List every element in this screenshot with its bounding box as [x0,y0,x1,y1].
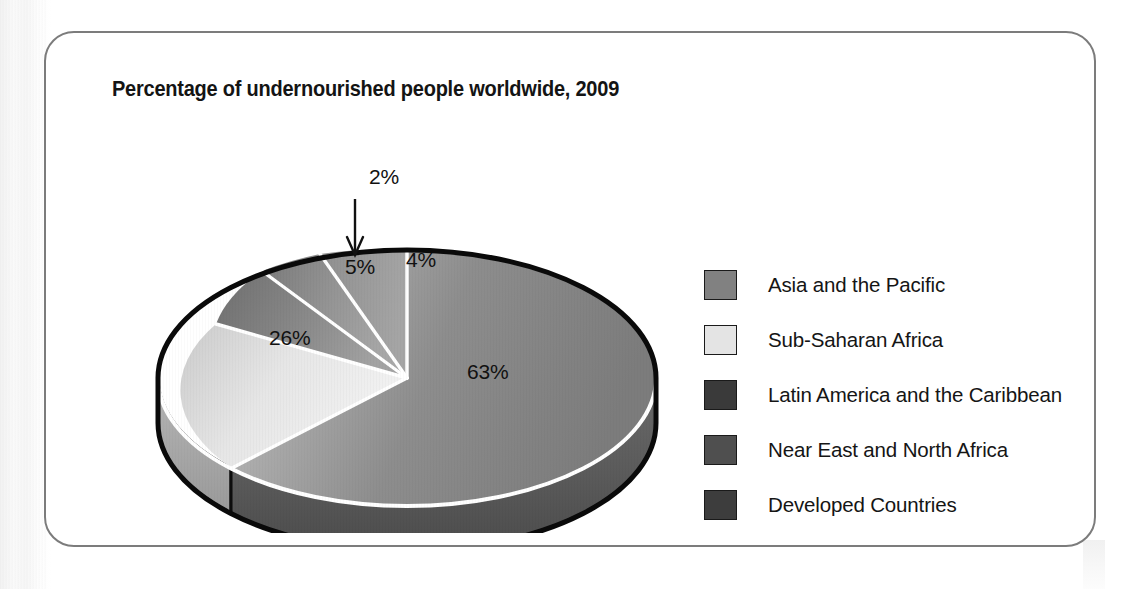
figure-card: Percentage of undernourished people worl… [44,31,1096,547]
legend-item-sub-saharan: Sub-Saharan Africa [704,312,1104,367]
pie-chart-svg [106,129,706,533]
legend-label: Developed Countries [768,493,957,517]
legend-label: Latin America and the Caribbean [768,383,1062,407]
slice-label-latin-america: 5% [345,255,375,279]
legend-label: Sub-Saharan Africa [768,328,943,352]
legend-swatch-icon [704,435,737,465]
slice-label-near-east: 4% [406,248,436,272]
slice-label-asia: 63% [467,360,508,384]
pie-chart: 63% 26% 5% 4% 2% [106,129,706,533]
legend-item-developed: Developed Countries [704,477,1104,532]
legend-swatch-icon [704,490,737,520]
legend-item-asia: Asia and the Pacific [704,257,1104,312]
legend-swatch-icon [704,325,737,355]
scan-artifact [1083,540,1105,589]
legend-swatch-icon [704,380,737,410]
slice-label-developed: 2% [369,165,399,189]
pie-scan-texture [158,250,656,533]
legend-item-near-east: Near East and North Africa [704,422,1104,477]
legend-label: Asia and the Pacific [768,273,945,297]
legend: Asia and the Pacific Sub-Saharan Africa … [704,257,1104,532]
slice-label-sub-saharan: 26% [269,326,310,350]
callout-arrow-2-percent [347,199,363,255]
legend-item-latin-america: Latin America and the Caribbean [704,367,1104,422]
legend-swatch-icon [704,270,737,300]
chart-title: Percentage of undernourished people worl… [112,77,619,102]
legend-label: Near East and North Africa [768,438,1008,462]
